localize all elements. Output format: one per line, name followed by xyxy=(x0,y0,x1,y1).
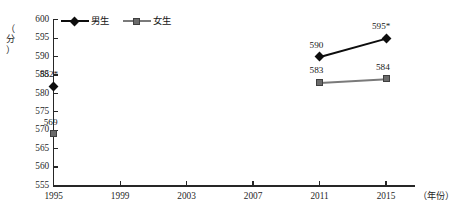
y-tick-label: 560 xyxy=(21,162,49,171)
x-tick-label: 2011 xyxy=(297,192,343,201)
y-tick xyxy=(54,93,58,94)
chart-legend: 男生 女生 xyxy=(61,14,171,28)
y-axis-title-char-2: ） xyxy=(3,45,18,55)
y-axis-title: （ 分 ） xyxy=(3,24,18,55)
y-tick-label: 595 xyxy=(21,33,49,42)
data-label-female-2015: 584 xyxy=(376,63,390,72)
y-tick xyxy=(54,19,58,20)
data-label-male-1995: 582* xyxy=(40,70,58,79)
data-label-female-1995: 569 xyxy=(44,118,58,127)
line-chart: （ 分 ） 男生 女生 5555605655705755805855905956… xyxy=(0,0,464,213)
y-tick-label: 590 xyxy=(21,52,49,61)
y-tick xyxy=(54,166,58,167)
data-label-female-2011: 583 xyxy=(310,66,324,75)
diamond-marker-icon xyxy=(49,81,59,91)
y-axis-title-char-0: （ xyxy=(3,24,18,34)
y-axis-line xyxy=(53,19,54,186)
x-tick xyxy=(385,181,386,186)
diamond-marker-icon xyxy=(315,52,325,62)
x-axis-title: （年份） xyxy=(418,191,454,201)
data-label-male-2011: 590 xyxy=(310,41,324,50)
series-line-male xyxy=(319,37,386,57)
x-tick-label: 2003 xyxy=(164,192,210,201)
legend-label-male: 男生 xyxy=(91,16,109,26)
x-tick-label: 1995 xyxy=(31,192,77,201)
y-tick xyxy=(54,56,58,57)
y-tick xyxy=(54,111,58,112)
x-axis-line xyxy=(53,185,415,186)
y-tick-label: 565 xyxy=(21,144,49,153)
data-label-male-2015: 595* xyxy=(372,22,390,31)
x-tick-label: 2007 xyxy=(230,192,276,201)
x-tick xyxy=(252,181,253,186)
y-tick-label: 600 xyxy=(21,15,49,24)
y-tick xyxy=(54,38,58,39)
x-tick-label: 2015 xyxy=(363,192,409,201)
x-tick-label: 1999 xyxy=(97,192,143,201)
diamond-marker-icon xyxy=(381,33,391,43)
y-tick-label: 575 xyxy=(21,107,49,116)
series-line-female xyxy=(319,78,386,83)
legend-item-male: 男生 xyxy=(61,16,109,26)
legend-swatch-male xyxy=(61,16,89,26)
x-tick xyxy=(186,181,187,186)
x-tick xyxy=(120,181,121,186)
y-tick xyxy=(54,148,58,149)
square-marker-icon xyxy=(383,75,390,82)
x-tick xyxy=(319,181,320,186)
legend-label-female: 女生 xyxy=(153,16,171,26)
square-marker-icon xyxy=(50,130,57,137)
square-marker-icon xyxy=(316,79,323,86)
y-axis-title-char-1: 分 xyxy=(3,34,18,44)
y-tick xyxy=(54,185,58,186)
legend-item-female: 女生 xyxy=(123,16,171,26)
y-tick-label: 580 xyxy=(21,89,49,98)
legend-swatch-female xyxy=(123,16,151,26)
y-tick-label: 555 xyxy=(21,181,49,190)
x-tick xyxy=(53,181,54,186)
